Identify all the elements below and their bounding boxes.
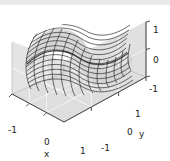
x-tick-label-neg1: -1 <box>8 126 17 135</box>
x-tick-label-0: 0 <box>44 138 50 147</box>
z-tick-label-1: 1 <box>153 26 159 35</box>
surface-plot-3d <box>0 0 170 161</box>
z-tick-label-0: 0 <box>153 56 159 65</box>
y-tick-label-0: 0 <box>127 128 133 137</box>
z-tick-label-neg1: -1 <box>149 85 158 94</box>
x-tick-label-1: 1 <box>80 147 86 156</box>
y-tick-label-neg1: -1 <box>101 144 110 153</box>
x-axis-label: x <box>44 150 49 159</box>
y-tick-label-1: 1 <box>135 110 141 119</box>
figure-canvas: -1 0 1 -1 0 1 1 0 -1 x y <box>0 0 170 161</box>
y-axis-label: y <box>139 130 144 139</box>
